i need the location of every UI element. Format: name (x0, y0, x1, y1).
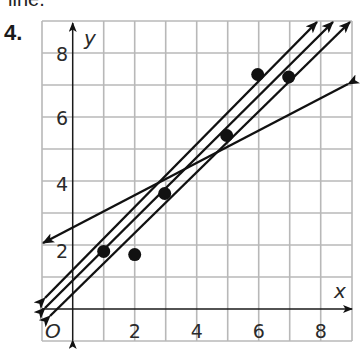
grid (42, 21, 352, 341)
origin-label: O (45, 319, 61, 343)
x-tick-4: 4 (191, 320, 203, 342)
shallow-line (43, 84, 348, 243)
data-point (220, 129, 233, 142)
y-tick-8: 8 (56, 43, 68, 65)
scatter-plot: 2 4 6 8 2 4 6 8 y x O (0, 0, 363, 352)
tick-labels: 2 4 6 8 2 4 6 8 y x O (45, 26, 346, 343)
data-point (282, 71, 295, 84)
y-axis-label: y (83, 26, 97, 50)
y-tick-6: 6 (56, 107, 68, 129)
data-point (251, 68, 264, 81)
y-tick-2: 2 (56, 240, 68, 262)
x-tick-2: 2 (129, 320, 141, 342)
y-tick-4: 4 (56, 173, 68, 195)
steep-line-c (50, 22, 350, 316)
data-point (128, 248, 141, 261)
data-point (158, 187, 171, 200)
x-axis-label: x (333, 279, 346, 303)
x-tick-6: 6 (253, 320, 265, 342)
data-point (97, 245, 110, 258)
steep-line-a (45, 22, 317, 298)
x-tick-8: 8 (315, 320, 327, 342)
